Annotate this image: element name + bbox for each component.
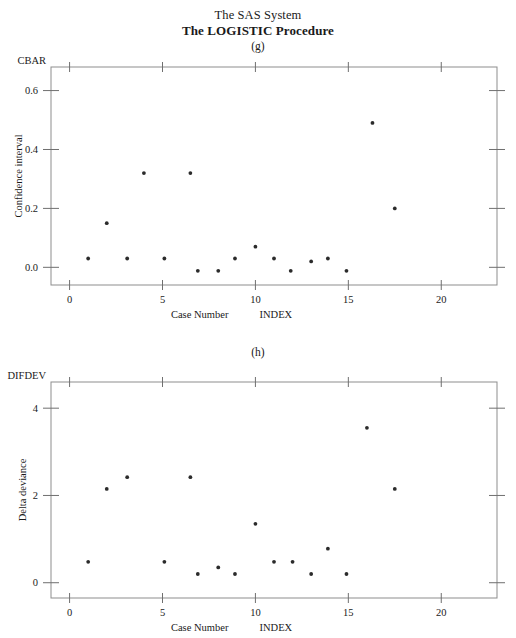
x-tick-label: 10 bbox=[250, 294, 261, 305]
x-tick-label: 5 bbox=[160, 607, 165, 618]
data-point bbox=[162, 560, 166, 564]
procedure-title: The LOGISTIC Procedure bbox=[0, 23, 516, 39]
data-point bbox=[345, 269, 349, 273]
plot-g-frame: 051015200.00.20.40.6CBARConfidence inter… bbox=[0, 46, 516, 346]
y-axis-title: Delta deviance bbox=[17, 458, 28, 521]
x-tick-label: 0 bbox=[67, 607, 72, 618]
data-point bbox=[188, 475, 192, 479]
y-tick-label: 0.0 bbox=[25, 262, 38, 273]
x-tick-label: 10 bbox=[250, 607, 261, 618]
data-point bbox=[125, 257, 129, 261]
x-axis-title-index: INDEX bbox=[260, 622, 293, 633]
data-point bbox=[105, 487, 109, 491]
data-point bbox=[216, 566, 220, 570]
plot-h-frame: 05101520024DIFDEVDelta devianceCase Numb… bbox=[0, 345, 516, 638]
y-tick-label: 4 bbox=[33, 403, 39, 414]
data-point bbox=[196, 572, 200, 576]
data-point bbox=[345, 572, 349, 576]
data-point bbox=[86, 560, 90, 564]
data-point bbox=[188, 171, 192, 175]
page-title: The SAS System bbox=[0, 8, 516, 23]
x-tick-label: 15 bbox=[343, 294, 354, 305]
data-point bbox=[86, 257, 90, 261]
data-point bbox=[309, 260, 313, 264]
data-point bbox=[272, 257, 276, 261]
y-variable-name: DIFDEV bbox=[8, 370, 47, 381]
scatter-plot-difdev: (h) 05101520024DIFDEVDelta devianceCase … bbox=[0, 345, 516, 638]
x-tick-label: 20 bbox=[436, 294, 447, 305]
x-axis-title-case-number: Case Number bbox=[171, 622, 229, 633]
data-point bbox=[254, 245, 258, 249]
y-tick-label: 0.6 bbox=[25, 85, 38, 96]
scatter-plot-cbar: 051015200.00.20.40.6CBARConfidence inter… bbox=[0, 46, 516, 346]
data-point bbox=[291, 560, 295, 564]
x-tick-label: 0 bbox=[67, 294, 72, 305]
data-point bbox=[233, 572, 237, 576]
data-point bbox=[254, 522, 258, 526]
x-tick-label: 20 bbox=[436, 607, 447, 618]
y-variable-name: CBAR bbox=[17, 55, 46, 66]
data-point bbox=[125, 475, 129, 479]
x-axis-title-case-number: Case Number bbox=[171, 309, 229, 320]
data-point bbox=[233, 257, 237, 261]
x-tick-label: 5 bbox=[160, 294, 165, 305]
data-point bbox=[289, 269, 293, 273]
data-point bbox=[393, 207, 397, 211]
data-point bbox=[326, 547, 330, 551]
data-point bbox=[105, 221, 109, 225]
data-point bbox=[196, 269, 200, 273]
data-point bbox=[216, 269, 220, 273]
plot-frame bbox=[51, 382, 497, 598]
sas-output-page: The SAS System The LOGISTIC Procedure (g… bbox=[0, 0, 516, 638]
y-tick-label: 2 bbox=[33, 490, 38, 501]
x-tick-label: 15 bbox=[343, 607, 354, 618]
data-point bbox=[142, 171, 146, 175]
y-axis-title: Confidence interval bbox=[13, 134, 24, 217]
data-point bbox=[309, 572, 313, 576]
data-point bbox=[393, 487, 397, 491]
data-point bbox=[326, 257, 330, 261]
plot-frame bbox=[51, 67, 497, 285]
y-tick-label: 0.2 bbox=[25, 203, 38, 214]
data-point bbox=[162, 257, 166, 261]
x-axis-title-index: INDEX bbox=[260, 309, 293, 320]
data-point-series bbox=[86, 426, 396, 576]
y-tick-label: 0.4 bbox=[25, 144, 39, 155]
y-tick-label: 0 bbox=[33, 577, 38, 588]
data-point bbox=[365, 426, 369, 430]
data-point bbox=[371, 121, 375, 125]
plot-h-canvas: 05101520024DIFDEVDelta devianceCase Numb… bbox=[0, 345, 516, 638]
data-point bbox=[272, 560, 276, 564]
data-point-series bbox=[86, 121, 396, 273]
plot-g-canvas: 051015200.00.20.40.6CBARConfidence inter… bbox=[0, 46, 516, 346]
